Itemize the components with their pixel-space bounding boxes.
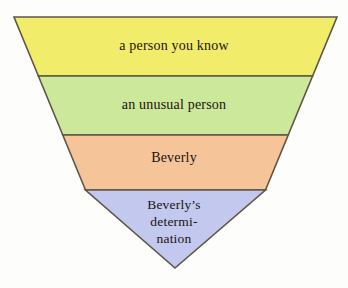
funnel-shape-group — [0, 0, 348, 288]
funnel-tier-1-shape — [14, 17, 337, 76]
funnel-tier-2-shape — [38, 76, 312, 135]
funnel-diagram: a person you know an unusual person Beve… — [0, 0, 348, 288]
funnel-tier-4-shape — [86, 190, 266, 268]
funnel-tier-3-shape — [63, 135, 288, 190]
